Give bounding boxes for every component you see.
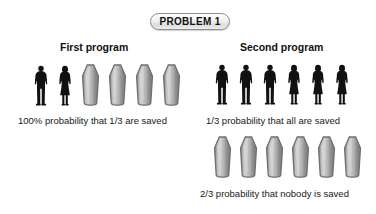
person-male-icon [260, 62, 280, 107]
coffin-icon [106, 62, 129, 108]
problem-badge-label: PROBLEM 1 [159, 17, 220, 27]
icon-row-second-program-saved [212, 62, 352, 107]
person-male-icon [31, 63, 51, 108]
coffin-icon [237, 134, 260, 180]
coffin-icon [315, 134, 338, 180]
heading-second-program: Second program [240, 42, 323, 53]
person-female-icon [308, 62, 328, 107]
person-female-icon [55, 63, 75, 108]
person-male-icon [236, 62, 256, 107]
coffin-icon [263, 134, 286, 180]
coffin-icon [341, 134, 364, 180]
coffin-icon [79, 62, 102, 108]
icon-row-second-program-nobody [211, 134, 364, 180]
caption-second-program-nobody: 2/3 probability that nobody is saved [200, 189, 349, 199]
icon-row-first-program [31, 62, 183, 108]
coffin-icon [289, 134, 312, 180]
person-male-icon [212, 62, 232, 107]
problem-badge: PROBLEM 1 [150, 13, 230, 30]
person-female-icon [332, 62, 352, 107]
caption-first-program: 100% probability that 1/3 are saved [18, 116, 167, 126]
coffin-icon [133, 62, 156, 108]
coffin-icon [211, 134, 234, 180]
caption-second-program-saved: 1/3 probability that all are saved [206, 116, 340, 126]
person-female-icon [284, 62, 304, 107]
problem-framing-figure: PROBLEM 1 First program Second program 1… [0, 0, 376, 214]
coffin-icon [160, 62, 183, 108]
heading-first-program: First program [60, 42, 128, 53]
